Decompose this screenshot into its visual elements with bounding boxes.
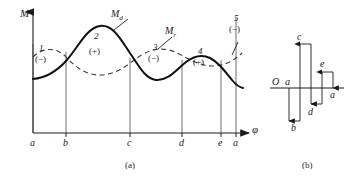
panel-b-label-c: c xyxy=(297,32,301,42)
panel-b-label-a: a xyxy=(285,77,290,87)
panel-b-label-a-end: a xyxy=(330,90,335,100)
panel-b-label-e: e xyxy=(320,59,324,69)
panel-b-caption: (b) xyxy=(302,160,313,170)
panel-b-label-b: b xyxy=(291,123,296,133)
origin-label: O xyxy=(272,77,279,87)
panel-b-label-d: d xyxy=(308,107,313,117)
figure-root: M φ Md Mr 1 (−) 2 (+) 3 (−) 4 (+) 5 (−) … xyxy=(0,0,354,177)
panel-b-graphic xyxy=(0,0,354,177)
